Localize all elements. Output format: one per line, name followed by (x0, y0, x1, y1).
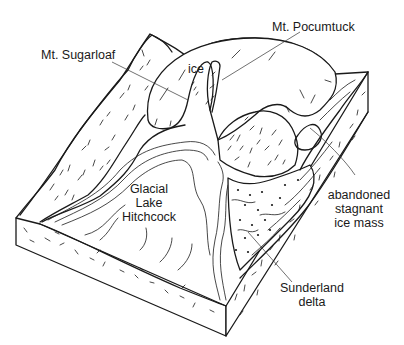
label-sunderland-delta: Sunderland delta (276, 281, 348, 309)
label-glacial-lake-hitchcock: Glacial Lake Hitchcock (118, 182, 180, 224)
block-diagram: Mt. Sugarloaf ice Mt. Pocumtuck Glacial … (0, 0, 404, 345)
label-mt-pocumtuck: Mt. Pocumtuck (272, 20, 355, 34)
ice-lobes (147, 38, 336, 140)
label-lake-line-3: Hitchcock (118, 210, 180, 224)
label-delta-line-1: Sunderland (276, 281, 348, 295)
label-delta-line-2: delta (276, 295, 348, 309)
label-mt-sugarloaf: Mt. Sugarloaf (41, 48, 115, 62)
label-lake-line-2: Lake (118, 196, 180, 210)
label-stagnant-line-2: stagnant (324, 202, 394, 216)
label-lake-line-1: Glacial (118, 182, 180, 196)
label-stagnant-line-3: ice mass (324, 216, 394, 230)
label-abandoned-stagnant-ice-mass: abandoned stagnant ice mass (324, 188, 394, 230)
label-stagnant-line-1: abandoned (324, 188, 394, 202)
label-ice: ice (188, 62, 204, 76)
